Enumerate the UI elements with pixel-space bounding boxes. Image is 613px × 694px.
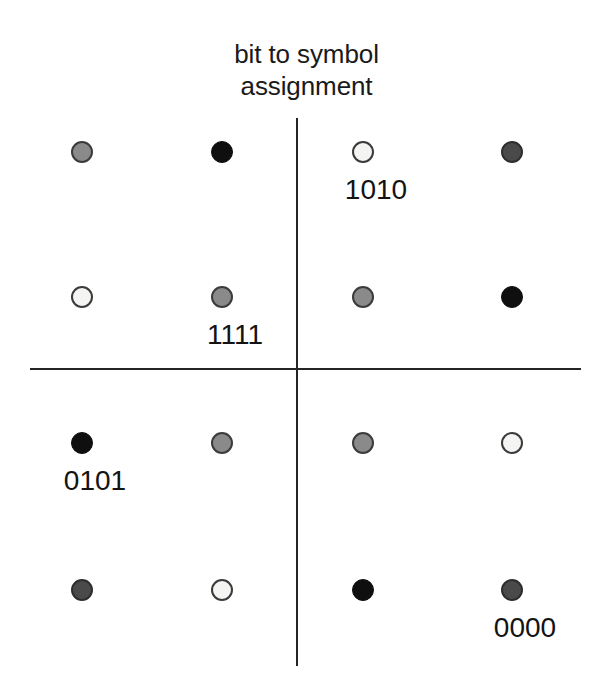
- bit-label: 1111: [207, 320, 263, 350]
- constellation-point: [211, 141, 233, 163]
- constellation-point: [501, 432, 523, 454]
- constellation-point: [352, 141, 374, 163]
- constellation-point: [71, 286, 93, 308]
- constellation-point: [352, 432, 374, 454]
- constellation-figure: bit to symbol assignment 101011110101000…: [0, 0, 613, 694]
- constellation-point: [501, 579, 523, 601]
- constellation-point: [352, 286, 374, 308]
- constellation-point: [211, 286, 233, 308]
- constellation-point: [71, 579, 93, 601]
- bit-label: 0101: [64, 466, 126, 496]
- constellation-point: [352, 579, 374, 601]
- constellation-point: [501, 286, 523, 308]
- constellation-point: [71, 141, 93, 163]
- constellation-point: [501, 141, 523, 163]
- page-title: bit to symbol assignment: [0, 38, 613, 102]
- bit-label: 1010: [345, 175, 407, 205]
- constellation-point: [71, 432, 93, 454]
- constellation-point: [211, 579, 233, 601]
- quadrature-axis-line: [296, 118, 298, 666]
- constellation-point: [211, 432, 233, 454]
- in-phase-axis-line: [30, 368, 581, 370]
- bit-label: 0000: [494, 613, 556, 643]
